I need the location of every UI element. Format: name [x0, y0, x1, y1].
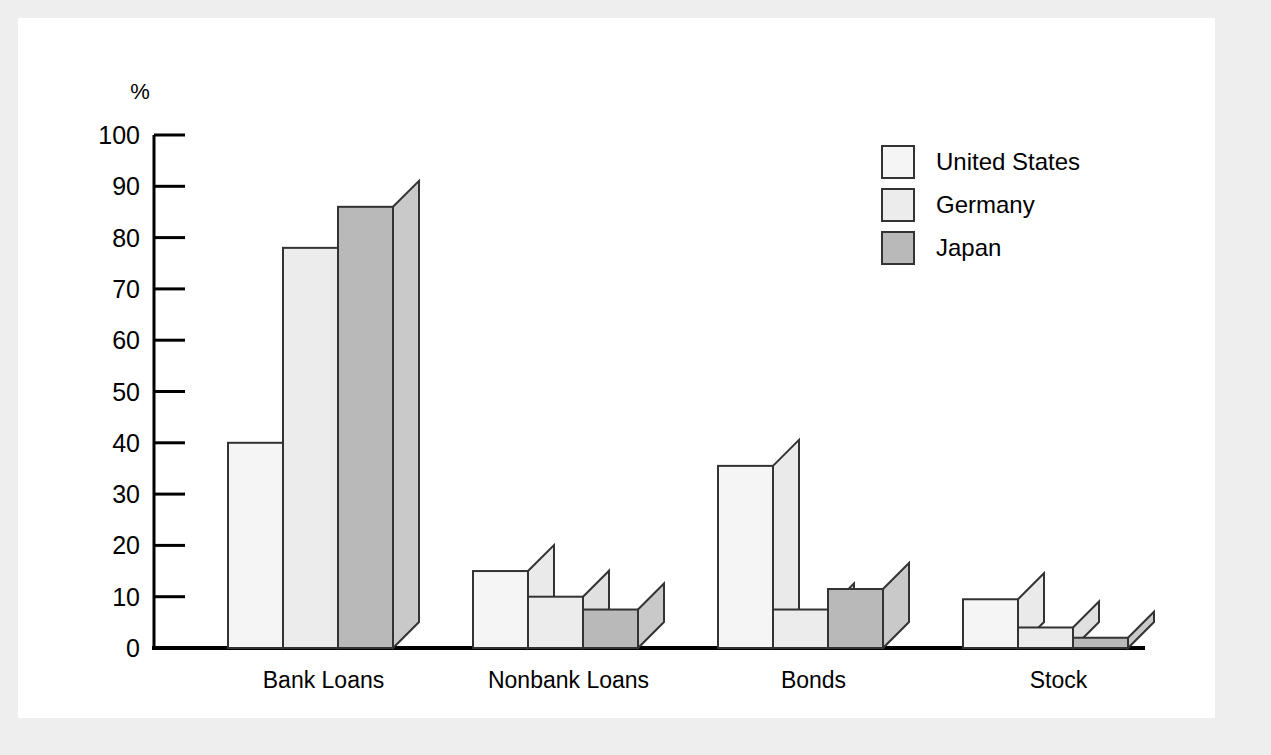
legend: United StatesGermanyJapan — [882, 146, 1080, 264]
bar-group — [228, 181, 419, 648]
y-axis-tick-label: 80 — [112, 224, 140, 252]
bar-group — [963, 573, 1154, 648]
y-axis-tick-label: 60 — [112, 326, 140, 354]
bar-front-face — [1018, 627, 1073, 648]
y-axis-tick-label: 0 — [126, 634, 140, 662]
x-axis-category-label: Stock — [1030, 667, 1088, 693]
bar-front-face — [583, 610, 638, 648]
bar-front-face — [1073, 638, 1128, 648]
bar-side-face — [638, 584, 664, 648]
bar-front-face — [283, 248, 338, 648]
bar — [828, 563, 909, 648]
legend-item-label: Germany — [936, 191, 1035, 218]
bar — [338, 181, 419, 648]
bar-front-face — [963, 599, 1018, 648]
bar-front-face — [718, 466, 773, 648]
y-axis-tick-label: 90 — [112, 172, 140, 200]
y-axis: 0102030405060708090100% — [98, 79, 185, 662]
legend-item-label: Japan — [936, 234, 1001, 261]
chart-canvas: 0102030405060708090100%Bank LoansNonbank… — [18, 18, 1215, 718]
legend-swatch — [882, 232, 914, 264]
y-axis-tick-label: 50 — [112, 378, 140, 406]
bar-front-face — [228, 443, 283, 648]
bar-group-container — [228, 181, 1154, 648]
bar-group — [718, 440, 909, 648]
bar-side-face — [1128, 612, 1154, 648]
y-axis-tick-label: 10 — [112, 583, 140, 611]
bar-front-face — [528, 597, 583, 648]
legend-swatch — [882, 189, 914, 221]
bar-side-face — [883, 563, 909, 648]
bar-group — [473, 545, 664, 648]
bar-front-face — [473, 571, 528, 648]
bar-chart: 0102030405060708090100%Bank LoansNonbank… — [18, 18, 1215, 718]
x-axis-labels: Bank LoansNonbank LoansBondsStock — [263, 667, 1088, 693]
figure-outer-frame: 0102030405060708090100%Bank LoansNonbank… — [0, 0, 1271, 755]
y-axis-tick-label: 70 — [112, 275, 140, 303]
y-axis-tick-label: 20 — [112, 531, 140, 559]
y-axis-unit-label: % — [130, 79, 150, 104]
y-axis-tick-label: 100 — [98, 121, 140, 149]
y-axis-tick-label: 30 — [112, 480, 140, 508]
figure-panel: 0102030405060708090100%Bank LoansNonbank… — [18, 18, 1215, 718]
bar-front-face — [773, 610, 828, 648]
bar-front-face — [828, 589, 883, 648]
x-axis-category-label: Nonbank Loans — [488, 667, 649, 693]
bar-front-face — [338, 207, 393, 648]
y-axis-tick-label: 40 — [112, 429, 140, 457]
bar-side-face — [393, 181, 419, 648]
legend-item-label: United States — [936, 148, 1080, 175]
x-axis-category-label: Bonds — [781, 667, 846, 693]
legend-swatch — [882, 146, 914, 178]
x-axis-category-label: Bank Loans — [263, 667, 384, 693]
